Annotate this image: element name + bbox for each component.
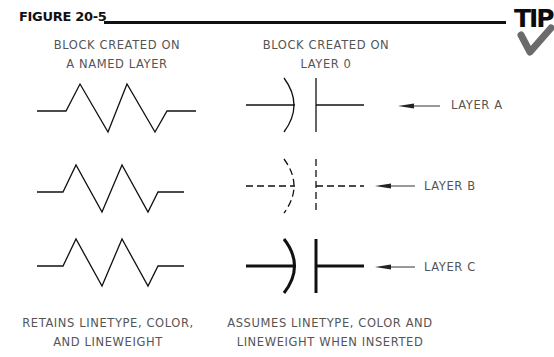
left-header-line-2: A NAMED LAYER	[27, 55, 207, 74]
middle-column-footer: ASSUMES LINETYPE, COLOR AND LINEWEIGHT W…	[210, 314, 450, 352]
middle-header-line-2: LAYER 0	[236, 55, 416, 74]
resistor-symbol-layer-b	[37, 165, 184, 212]
middle-footer-line-1: ASSUMES LINETYPE, COLOR AND	[210, 314, 450, 333]
resistor-symbol-layer-a	[37, 84, 196, 132]
arrow-icon-layer-b	[375, 184, 415, 189]
capacitor-symbol-layer-c	[246, 239, 364, 293]
arrow-icon-layer-c	[375, 265, 415, 270]
checkmark-icon	[521, 28, 551, 52]
capacitor-symbol-layer-a	[246, 78, 364, 132]
middle-column-header: BLOCK CREATED ON LAYER 0	[236, 36, 416, 74]
layer-label-c: LAYER C	[424, 260, 476, 274]
layer-label-b: LAYER B	[424, 179, 476, 193]
left-footer-line-2: AND LINEWEIGHT	[8, 333, 208, 352]
left-header-line-1: BLOCK CREATED ON	[27, 36, 207, 55]
layer-label-a: LAYER A	[451, 98, 503, 112]
middle-header-line-1: BLOCK CREATED ON	[236, 36, 416, 55]
left-footer-line-1: RETAINS LINETYPE, COLOR,	[8, 314, 208, 333]
resistor-symbol-layer-c	[37, 239, 184, 286]
arrow-icon-layer-a	[398, 104, 440, 109]
capacitor-symbol-layer-b	[246, 159, 364, 213]
left-column-footer: RETAINS LINETYPE, COLOR, AND LINEWEIGHT	[8, 314, 208, 352]
left-column-header: BLOCK CREATED ON A NAMED LAYER	[27, 36, 207, 74]
middle-footer-line-2: LINEWEIGHT WHEN INSERTED	[210, 333, 450, 352]
